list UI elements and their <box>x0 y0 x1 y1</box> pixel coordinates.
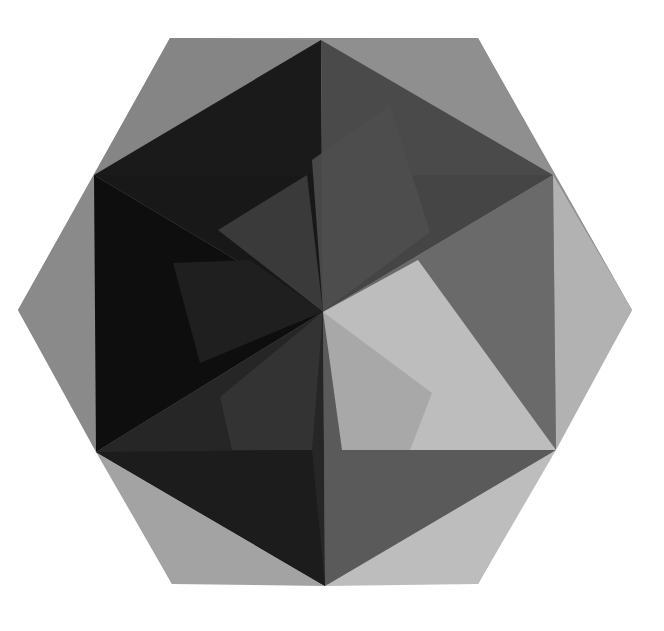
hexagon-right-band <box>553 175 632 450</box>
geometric-artwork <box>0 0 664 631</box>
hexagon-left-band <box>18 175 96 452</box>
